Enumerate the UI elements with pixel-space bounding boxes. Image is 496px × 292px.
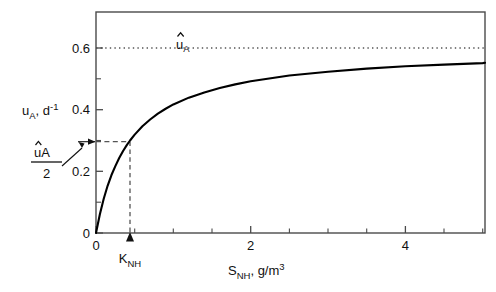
y-axis-title-superscript: -1 [50,101,58,112]
arrow-head-right-icon [88,139,96,145]
x-axis-title-superscript: 3 [279,261,284,272]
svg-text:uA, d-1: uA, d-1 [22,101,59,121]
half-max-rate-numerator: uA [34,145,50,160]
k-nh-label-main: K [119,251,128,266]
x-axis-title-rest: , g/m [250,263,279,278]
y-axis-title-main: u [22,103,29,118]
x-axis-title: SNH, g/m3 [228,261,285,281]
y-tick-label-0: 0 [83,226,90,241]
y-tick-label-0-2: 0.2 [72,164,90,179]
plot-frame [96,12,485,233]
svg-text:KNH: KNH [119,251,142,269]
pointer-join-icon [79,142,85,148]
u-hat-a-label-group: uA [172,30,193,54]
y-tick-label-0-4: 0.4 [72,102,90,117]
x-tick-label-4: 4 [402,238,409,253]
monod-kinetics-figure: 0 0.2 0.4 0.6 0 2 4 uA, d-1 SNH, g/m3 uA [0,0,496,292]
chart-canvas: 0 0.2 0.4 0.6 0 2 4 uA, d-1 SNH, g/m3 uA [0,0,496,292]
y-axis-title-rest: , d [36,103,50,118]
svg-text:SNH, g/m3: SNH, g/m3 [228,261,285,281]
x-axis-title-main: S [228,263,237,278]
k-nh-label-subscript: NH [127,258,141,269]
x-axis-title-subscript: NH [237,270,251,281]
half-max-rate-denominator: 2 [43,166,50,181]
k-nh-label-group: KNH [119,232,142,269]
x-tick-label-2: 2 [247,238,254,253]
y-tick-label-0-6: 0.6 [72,41,90,56]
x-tick-label-0: 0 [92,238,99,253]
y-axis-title: uA, d-1 [22,101,59,121]
